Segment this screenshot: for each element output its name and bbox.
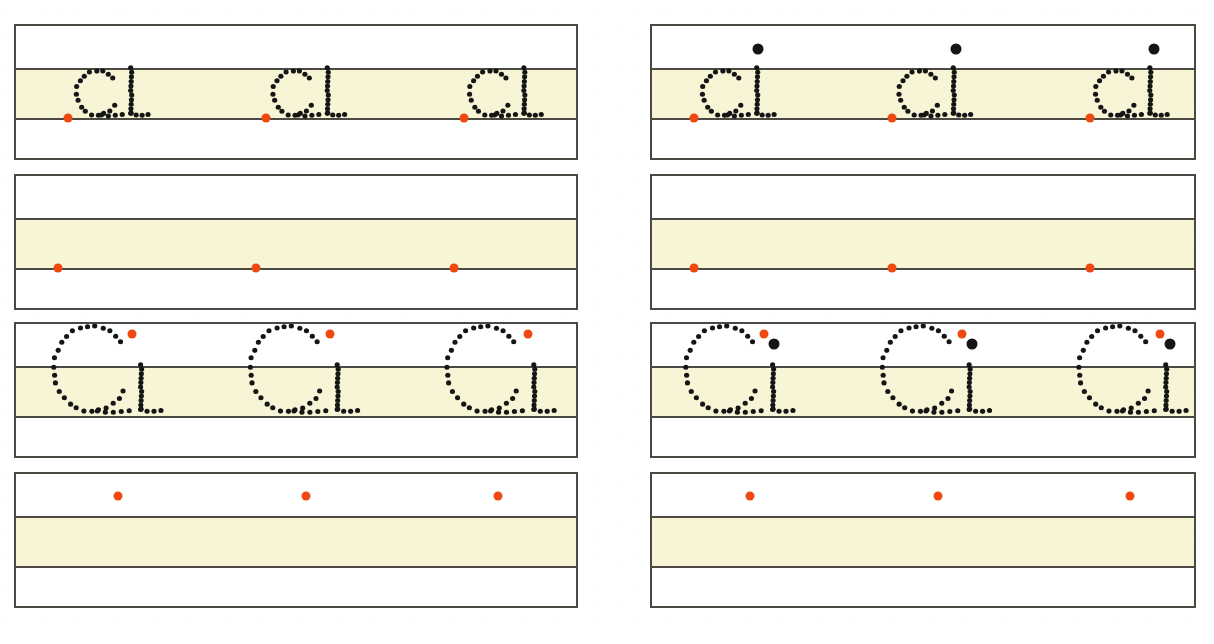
start-dot	[958, 330, 967, 339]
start-dot	[1156, 330, 1165, 339]
worksheet-page	[0, 0, 1214, 644]
practice-box-box-r4c1[interactable]	[14, 472, 578, 608]
start-dot	[54, 264, 63, 273]
xheight-band	[652, 218, 1194, 270]
practice-box-box-r1c2[interactable]	[650, 24, 1196, 160]
start-dot	[128, 330, 137, 339]
practice-box-box-r2c2[interactable]	[650, 174, 1196, 310]
xheight-band	[16, 366, 576, 418]
start-dot	[690, 264, 699, 273]
tittle-dot	[951, 44, 962, 55]
xheight-band	[652, 366, 1194, 418]
start-dot	[888, 264, 897, 273]
start-dot	[888, 114, 897, 123]
start-dot	[326, 330, 335, 339]
start-dot	[690, 114, 699, 123]
start-dot	[114, 492, 123, 501]
start-dot	[934, 492, 943, 501]
practice-box-box-r3c1[interactable]	[14, 322, 578, 458]
start-dot	[460, 114, 469, 123]
start-dot	[746, 492, 755, 501]
practice-box-box-r4c2[interactable]	[650, 472, 1196, 608]
tittle-dot	[967, 339, 978, 350]
tittle-dot	[769, 339, 780, 350]
xheight-band	[16, 68, 576, 120]
tittle-dot	[1149, 44, 1160, 55]
tittle-dot	[753, 44, 764, 55]
xheight-band	[16, 516, 576, 568]
tittle-dot	[1165, 339, 1176, 350]
practice-box-box-r1c1[interactable]	[14, 24, 578, 160]
start-dot	[64, 114, 73, 123]
start-dot	[1126, 492, 1135, 501]
practice-box-box-r3c2[interactable]	[650, 322, 1196, 458]
start-dot	[1086, 114, 1095, 123]
xheight-band	[652, 516, 1194, 568]
start-dot	[262, 114, 271, 123]
start-dot	[760, 330, 769, 339]
start-dot	[524, 330, 533, 339]
practice-box-box-r2c1[interactable]	[14, 174, 578, 310]
start-dot	[1086, 264, 1095, 273]
xheight-band	[652, 68, 1194, 120]
start-dot	[494, 492, 503, 501]
start-dot	[252, 264, 261, 273]
xheight-band	[16, 218, 576, 270]
start-dot	[302, 492, 311, 501]
start-dot	[450, 264, 459, 273]
